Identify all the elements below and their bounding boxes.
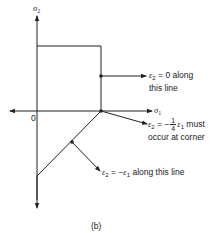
origin-label: 0: [31, 113, 36, 123]
annotation-top: ε2 = 0 along this line: [149, 70, 193, 93]
annotation-bottom: ε2 = −ε1 along this line: [102, 167, 184, 180]
sigma2-label: σ2: [33, 3, 40, 16]
strain-arrow-corner: [101, 111, 147, 124]
yield-surface-top: [37, 46, 101, 111]
figure-caption: (b): [91, 221, 101, 231]
annotation-corner: ε2 = −14ε1 must occur at corner: [148, 117, 205, 142]
yield-surface-diagonal: [37, 111, 101, 176]
strain-arrow-diagonal: [72, 142, 100, 171]
